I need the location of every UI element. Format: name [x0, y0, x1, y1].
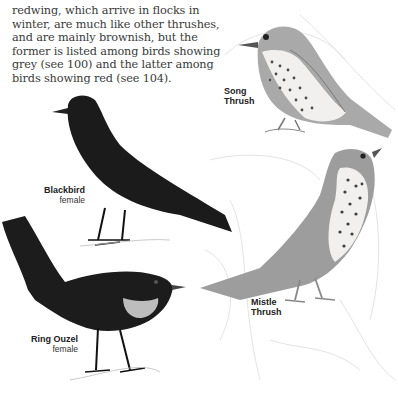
text-line: birds showing red (see 104).: [12, 72, 242, 86]
blackbird-label: Blackbird female: [30, 185, 85, 205]
blackbird-illustration: [52, 95, 232, 246]
text-line: former is listed among birds showing: [12, 45, 242, 59]
text-line: winter, are much like other thrushes,: [12, 18, 242, 32]
text-line: grey (see 100) and the latter among: [12, 58, 242, 72]
body-paragraph: redwing, which arrive in flocks in winte…: [12, 4, 242, 86]
text-line: and are mainly brownish, but the: [12, 31, 242, 45]
text-line: redwing, which arrive in flocks in: [12, 4, 242, 18]
mistle-thrush-label: Mistle Thrush: [251, 297, 282, 317]
ring-ouzel-label: Ring Ouzel female: [20, 334, 78, 354]
song-thrush-illustration: [238, 27, 392, 138]
song-thrush-label: Song Thrush: [224, 86, 255, 106]
